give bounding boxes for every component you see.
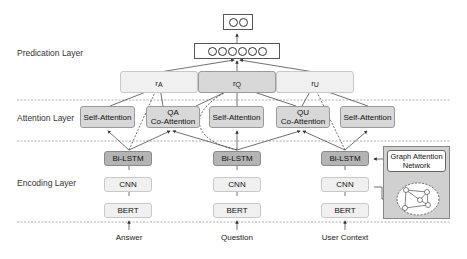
hidden-node: [238, 47, 247, 56]
co-attention-title: QA: [167, 108, 179, 117]
output-node: [239, 18, 248, 27]
qu-co-attention: QU Co-Attention: [276, 106, 330, 128]
user-representation: rU: [276, 71, 354, 93]
question-bilstm: Bi-LSTM: [213, 151, 261, 166]
gat-panel: Graph Attention Network: [383, 146, 450, 219]
question-bert: BERT: [213, 203, 261, 218]
final-output-layer: [223, 14, 253, 30]
output-node: [229, 18, 238, 27]
question-representation: rQ: [198, 71, 276, 93]
co-attention-title: QU: [297, 108, 309, 117]
hidden-node: [258, 47, 267, 56]
connection-lines: [0, 0, 467, 259]
co-attention-subtitle: Co-Attention: [281, 117, 325, 126]
question-cnn: CNN: [213, 177, 261, 192]
graph-icon: [384, 147, 451, 220]
rep-superscript: Q: [236, 81, 241, 88]
question-input-label: Question: [221, 233, 253, 242]
answer-self-attention: Self-Attention: [80, 106, 135, 128]
rep-superscript: A: [158, 81, 163, 88]
hidden-output-layer: [194, 43, 280, 59]
user-bilstm: Bi-LSTM: [321, 151, 369, 166]
answer-representation: rA: [120, 71, 198, 93]
user-bert: BERT: [321, 203, 369, 218]
question-self-attention: Self-Attention: [209, 106, 264, 128]
user-cnn: CNN: [321, 177, 369, 192]
answer-bilstm: Bi-LSTM: [104, 151, 152, 166]
co-attention-subtitle: Co-Attention: [151, 117, 195, 126]
hidden-node: [248, 47, 257, 56]
answer-cnn: CNN: [104, 177, 152, 192]
hidden-node: [218, 47, 227, 56]
answer-input-label: Answer: [116, 233, 143, 242]
user-self-attention: Self-Attention: [340, 106, 395, 128]
user-context-input-label: User Context: [322, 233, 369, 242]
rep-superscript: U: [314, 81, 319, 88]
answer-bert: BERT: [104, 203, 152, 218]
hidden-node: [208, 47, 217, 56]
qa-co-attention: QA Co-Attention: [146, 106, 200, 128]
hidden-node: [228, 47, 237, 56]
